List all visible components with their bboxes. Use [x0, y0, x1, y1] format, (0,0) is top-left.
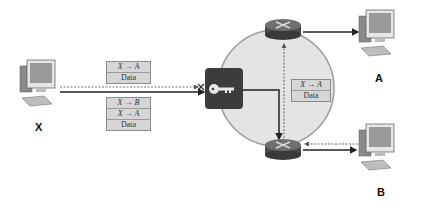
packet-left-top: X → A Data	[106, 61, 151, 84]
packet-outer-header: X → B	[107, 98, 150, 109]
packet-header: X → A	[292, 80, 330, 91]
router-bottom-icon	[265, 139, 301, 160]
gateway-box	[205, 68, 243, 109]
computer-x-icon	[20, 60, 55, 106]
cross-icon	[198, 84, 204, 90]
computer-a-icon	[359, 10, 394, 56]
router-top-icon	[265, 19, 301, 40]
node-label-x: X	[35, 121, 42, 133]
packet-inner-header: X → A	[107, 109, 150, 120]
packet-left-bottom: X → B X → A Data	[106, 97, 151, 131]
node-label-a: A	[375, 72, 383, 84]
computer-b-icon	[359, 124, 394, 170]
network-diagram	[0, 0, 422, 206]
packet-data: Data	[107, 120, 150, 130]
packet-header: X → A	[107, 62, 150, 73]
packet-inner: X → A Data	[291, 79, 331, 102]
packet-data: Data	[292, 91, 330, 101]
packet-data: Data	[107, 73, 150, 83]
node-label-b: B	[377, 186, 385, 198]
